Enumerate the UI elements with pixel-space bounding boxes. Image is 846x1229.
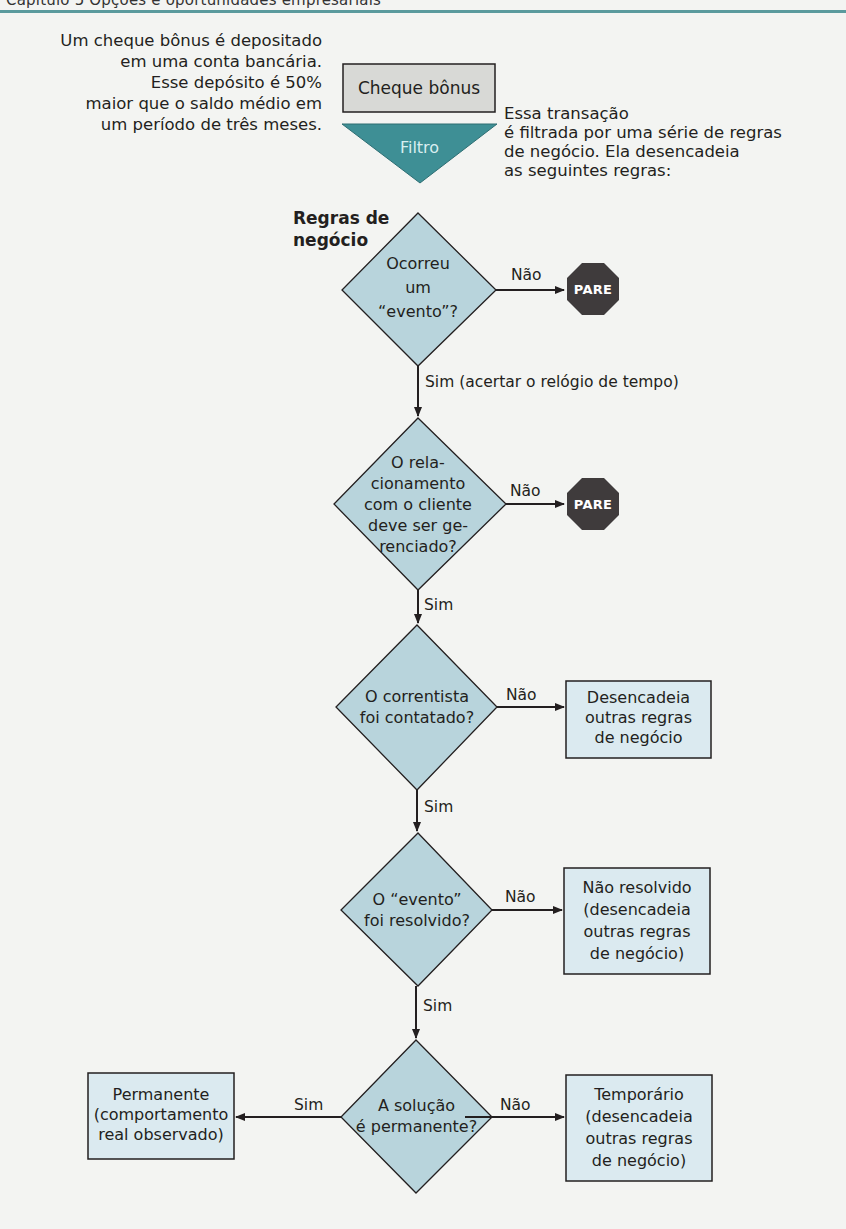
decision5-label: A solução é permanente? — [341, 1095, 492, 1137]
d4-yes-label: Sim — [423, 996, 452, 1016]
d2-no-label: Não — [510, 481, 541, 501]
d2-yes-label: Sim — [424, 595, 453, 615]
outcome3-label: Desencadeia outras regras de negócio — [566, 688, 711, 748]
d3-no-label: Não — [506, 685, 537, 705]
decision2-label: O rela- cionamento com o cliente deve se… — [348, 452, 488, 557]
d5-yes-label: Sim — [294, 1095, 323, 1115]
d4-no-label: Não — [505, 887, 536, 907]
filter-label: Filtro — [342, 138, 497, 158]
stop2-label: PARE — [567, 495, 619, 515]
decision3-label: O correntista foi contatado? — [340, 686, 494, 728]
start-box-label: Cheque bônus — [343, 78, 495, 98]
stop1-label: PARE — [567, 280, 619, 300]
intro-right-text: Essa transação é filtrada por uma série … — [504, 104, 844, 180]
decision1-label: Ocorreu um “evento”? — [358, 252, 478, 324]
decision4-label: O “evento” foi resolvido? — [342, 889, 492, 931]
outcome5-no-label: Temporário (desencadeia outras regras de… — [566, 1084, 712, 1172]
intro-left-text: Um cheque bônus é depositado em uma cont… — [0, 30, 322, 135]
flowchart-canvas — [0, 0, 846, 1229]
outcome4-label: Não resolvido (desencadeia outras regras… — [564, 877, 710, 965]
d3-yes-label: Sim — [424, 797, 453, 817]
d5-no-label: Não — [500, 1095, 531, 1115]
d1-no-label: Não — [511, 265, 542, 285]
outcome5-yes-label: Permanente (comportamento real observado… — [88, 1085, 234, 1145]
d1-yes-label: Sim (acertar o relógio de tempo) — [425, 372, 679, 392]
rules-heading: Regras de negócio — [248, 207, 408, 251]
